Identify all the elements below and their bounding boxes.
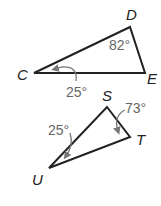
vertex-label-u: U <box>32 171 43 188</box>
vertex-label-d: D <box>126 6 137 23</box>
vertex-label-c: C <box>17 66 28 83</box>
angle-label-c: 25° <box>66 84 87 100</box>
angle-label-d: 82° <box>109 37 130 53</box>
angle-label-s: 73° <box>125 100 146 116</box>
triangle-diagram: D C E 82° 25° S T U 73° 25° <box>0 0 161 206</box>
vertex-label-t: T <box>136 131 147 148</box>
angle-label-u: 25° <box>48 122 69 138</box>
vertex-label-e: E <box>147 70 158 87</box>
vertex-label-s: S <box>102 87 112 104</box>
